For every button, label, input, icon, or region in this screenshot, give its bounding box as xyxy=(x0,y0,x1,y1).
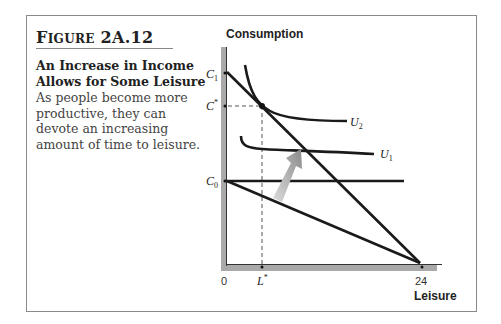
income-increase-arrow xyxy=(273,149,302,202)
lstar-label: L* xyxy=(256,273,268,288)
c0-label: C0 xyxy=(206,174,218,190)
tangency-point xyxy=(259,103,265,109)
budget-line-high xyxy=(227,72,420,263)
u1-curve xyxy=(241,136,374,154)
cstar-label: C* xyxy=(206,98,218,113)
x-axis-bar xyxy=(221,265,437,271)
y-axis-label: Consumption xyxy=(226,27,303,41)
u1-label: U1 xyxy=(380,147,393,163)
chart-svg: Consumption Leisure C1 C* C0 0 L* 24 U2 … xyxy=(0,0,501,324)
x-24-label: 24 xyxy=(415,275,427,287)
u2-curve xyxy=(245,65,347,121)
x-zero-label: 0 xyxy=(221,275,227,287)
x-axis-label: Leisure xyxy=(414,289,457,303)
c1-label: C1 xyxy=(206,67,218,83)
budget-line-low xyxy=(227,181,420,263)
u2-label: U2 xyxy=(350,115,363,131)
